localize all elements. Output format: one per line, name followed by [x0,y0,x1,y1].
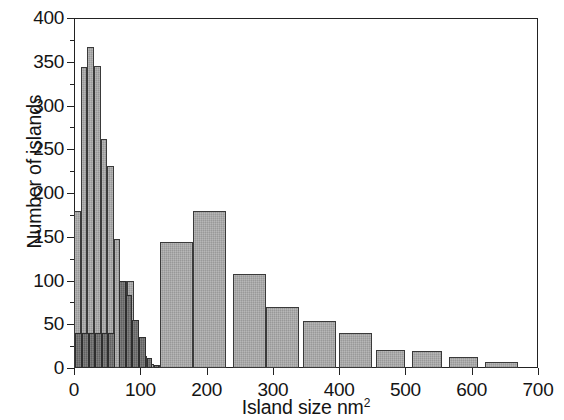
x-tick-label: 600 [456,379,487,401]
x-tick-mark [472,368,473,375]
y-tick-mark [67,62,74,63]
histogram-bar [126,295,133,369]
histogram-bar [412,351,442,368]
x-tick-label: 100 [125,379,156,401]
histogram-bar [94,66,101,368]
y-tick-label: 100 [33,270,64,292]
x-tick-label: 200 [191,379,222,401]
y-tick-label: 250 [33,138,64,160]
histogram-bar [95,333,102,368]
y-tick-label: 150 [33,226,64,248]
x-axis-title-exponent: 2 [364,396,370,410]
x-tick-mark [405,368,406,375]
x-tick-label: 700 [523,379,554,401]
y-tick-mark [67,18,74,19]
histogram-bar [147,358,152,369]
histogram-bar [81,67,88,368]
y-tick-mark [67,237,74,238]
histogram-bar [485,362,518,368]
x-tick-label: 400 [324,379,355,401]
y-tick-mark-minor [70,40,74,41]
histogram-bar [266,307,299,368]
plot-frame [74,18,538,368]
histogram-bar [87,47,94,368]
histogram-bar [139,337,146,368]
y-tick-mark-minor [70,171,74,172]
histogram-bar [108,333,115,368]
histogram-bar [303,321,336,368]
x-tick-label: 500 [390,379,421,401]
x-tick-mark [140,368,141,375]
y-axis-title: Number of islands [23,52,46,292]
y-tick-mark [67,193,74,194]
histogram-bar [119,281,126,369]
plot-area: 050100150200250300350400 010020030040050… [74,18,538,368]
histogram-bar [193,211,226,368]
x-tick-mark [538,368,539,375]
x-tick-mark [207,368,208,375]
x-tick-label: 0 [69,379,79,401]
x-tick-mark [74,368,75,375]
histogram-bar [75,333,82,368]
histogram-bar [339,333,372,368]
y-tick-mark [67,281,74,282]
histogram-bar [82,333,89,368]
x-tick-mark [339,368,340,375]
x-tick-label: 300 [257,379,288,401]
y-tick-label: 0 [54,357,64,379]
histogram-bar [132,320,139,368]
histogram-bar [102,333,109,368]
histogram-figure: Number of islands Island size nm2 050100… [0,0,564,420]
y-tick-mark-minor [70,127,74,128]
histogram-bar [154,365,159,369]
y-tick-mark-minor [70,84,74,85]
y-tick-label: 200 [33,182,64,204]
y-tick-mark [67,149,74,150]
histogram-bar [449,357,479,368]
y-tick-label: 400 [33,7,64,29]
y-tick-mark [67,106,74,107]
y-tick-mark [67,324,74,325]
y-tick-mark [67,368,74,369]
x-tick-mark [273,368,274,375]
histogram-bar [376,350,406,368]
histogram-bar [233,274,266,368]
y-tick-label: 300 [33,95,64,117]
histogram-bar [89,333,96,368]
y-tick-label: 350 [33,51,64,73]
y-tick-label: 50 [43,313,64,335]
histogram-bar [160,242,193,368]
